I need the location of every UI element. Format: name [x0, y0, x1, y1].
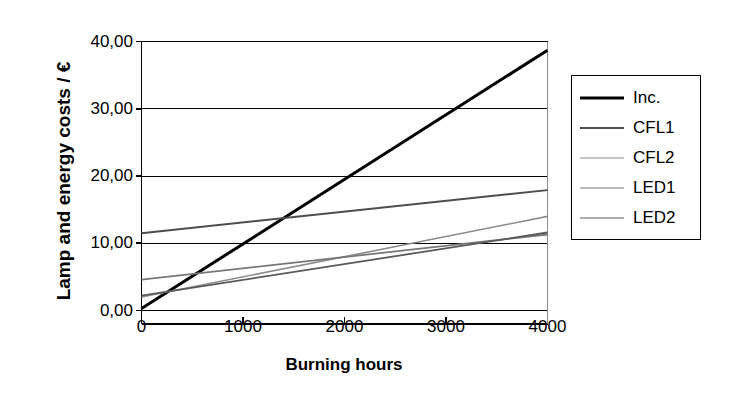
- x-axis-tick-labels: 01000200030004000: [0, 318, 734, 348]
- legend-item-label: CFL2: [633, 148, 675, 168]
- legend: Inc.CFL1CFL2LED1LED2: [571, 75, 701, 240]
- x-axis-title: Burning hours: [141, 355, 547, 375]
- legend-item[interactable]: CFL1: [572, 113, 700, 143]
- legend-line-swatch-icon: [580, 92, 624, 104]
- x-axis-tick-label: 2000: [305, 318, 385, 335]
- x-axis-tick-label: 4000: [508, 318, 588, 335]
- legend-item[interactable]: LED1: [572, 173, 700, 203]
- legend-item[interactable]: CFL2: [572, 143, 700, 173]
- series-line-inc: [142, 50, 548, 308]
- legend-item[interactable]: Inc.: [572, 83, 700, 113]
- legend-item[interactable]: LED2: [572, 203, 700, 233]
- legend-line-swatch-icon: [580, 212, 624, 224]
- series-line-cfl1: [142, 190, 548, 233]
- x-axis-tick-label: 0: [102, 318, 182, 335]
- chart-container: Lamp and energy costs / € 0,0010,0020,00…: [0, 0, 734, 395]
- legend-item-label: LED2: [633, 208, 676, 228]
- legend-item-label: CFL1: [633, 118, 675, 138]
- x-axis-tick-label: 1000: [203, 318, 283, 335]
- legend-line-swatch-icon: [580, 152, 624, 164]
- legend-item-label: LED1: [633, 178, 676, 198]
- legend-item-label: Inc.: [633, 88, 660, 108]
- x-axis-tick-label: 3000: [406, 318, 486, 335]
- series-line-led2: [142, 232, 548, 295]
- data-series-group: [142, 50, 548, 308]
- legend-line-swatch-icon: [580, 182, 624, 194]
- y-axis: [136, 42, 142, 311]
- legend-line-swatch-icon: [580, 122, 624, 134]
